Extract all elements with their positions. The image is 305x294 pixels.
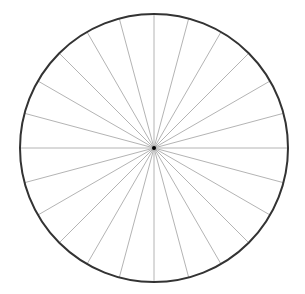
spoke-line xyxy=(154,81,270,148)
spoke-wheel-diagram xyxy=(0,0,305,294)
spoke-line xyxy=(59,53,154,148)
spoke-line xyxy=(154,113,283,148)
center-dot xyxy=(152,146,156,150)
spoke-line xyxy=(119,148,154,277)
spoke-line xyxy=(154,148,270,215)
spoke-line xyxy=(154,32,221,148)
spoke-line xyxy=(87,148,154,264)
spoke-line xyxy=(154,148,283,183)
spoke-line xyxy=(38,81,154,148)
spoke-line xyxy=(25,148,154,183)
spoke-line xyxy=(119,19,154,148)
spoke-line xyxy=(38,148,154,215)
spoke-line xyxy=(25,113,154,148)
spoke-line xyxy=(154,148,221,264)
spoke-line xyxy=(87,32,154,148)
spoke-line xyxy=(154,53,249,148)
spoke-line xyxy=(154,148,249,243)
spoke-line xyxy=(154,19,189,148)
spoke-line xyxy=(154,148,189,277)
diagram-canvas xyxy=(0,0,305,294)
spoke-line xyxy=(59,148,154,243)
